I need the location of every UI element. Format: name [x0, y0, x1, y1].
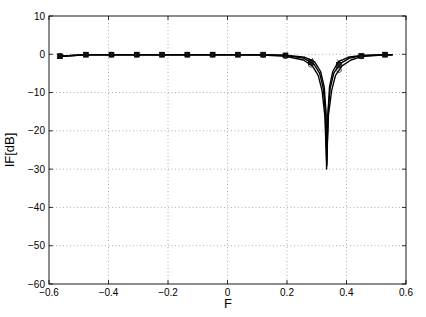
series-line-3	[60, 55, 393, 166]
y-tick-label: 10	[34, 11, 46, 22]
series-line-1	[60, 55, 393, 169]
series-line-2	[60, 55, 393, 162]
notch-response-chart: −0.6−0.4−0.200.20.40.6 100−10−20−30−40−5…	[0, 0, 426, 317]
y-axis-label: IF[dB]	[2, 133, 17, 168]
x-tick-label: 0.4	[340, 287, 354, 298]
y-tick-label: −50	[28, 240, 45, 251]
y-tick-label: 0	[39, 49, 45, 60]
x-tick-label: −0.2	[158, 287, 178, 298]
x-tick-label: 0.6	[399, 287, 413, 298]
y-tick-label: −10	[28, 87, 45, 98]
x-axis-label: F	[224, 296, 232, 311]
y-tick-label: −30	[28, 164, 45, 175]
x-tick-label: −0.4	[99, 287, 119, 298]
data-curves	[60, 55, 393, 169]
y-tick-label: −40	[28, 202, 45, 213]
y-tick-label: −60	[28, 279, 45, 290]
y-tick-label: −20	[28, 125, 45, 136]
x-tick-label: 0.2	[280, 287, 294, 298]
